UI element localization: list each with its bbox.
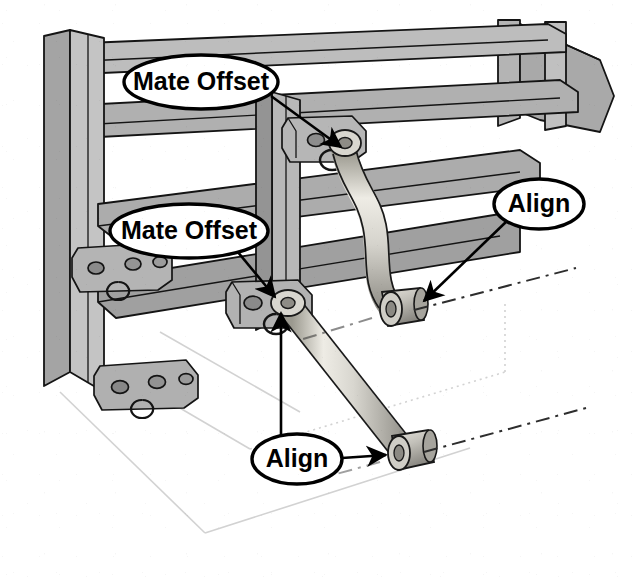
leader-mate-offset-lower [237,251,275,297]
callout-label: Mate Offset [133,67,270,95]
diagram-canvas: Mate Offset Mate Offset Align Align [0,0,638,586]
leader-mate-offset-upper [271,96,341,147]
callout-align-lower[interactable]: Align [252,434,342,484]
leader-align-upper [424,220,508,301]
annotation-layer: Mate Offset Mate Offset Align Align [0,0,638,586]
callout-label: Align [266,444,329,472]
callout-align-upper[interactable]: Align [494,179,584,229]
callout-mate-offset-lower[interactable]: Mate Offset [110,204,268,258]
callout-label: Align [508,189,571,217]
callout-label: Mate Offset [121,216,258,244]
leader-lines [237,96,508,458]
callout-mate-offset-upper[interactable]: Mate Offset [124,55,278,109]
leader-align-lower [342,455,386,458]
